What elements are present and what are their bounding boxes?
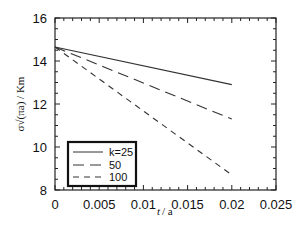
y-tick-label: 12 — [33, 97, 47, 112]
x-axis-label: t / a — [157, 205, 173, 217]
y-tick-label: 8 — [40, 183, 47, 198]
legend-label-k25: k=25 — [109, 146, 133, 158]
x-axis-label-main: t — [157, 205, 161, 217]
y-tick-labels: 810121416 — [33, 11, 47, 198]
x-tick-label: 0 — [51, 197, 58, 212]
x-tick-label: 0.02 — [219, 197, 244, 212]
x-tick-label: 0.015 — [171, 197, 204, 212]
legend: k=25 50 100 — [68, 142, 136, 186]
legend-label-50: 50 — [109, 159, 121, 171]
x-tick-label: 0.005 — [83, 197, 116, 212]
x-tick-label: 0.025 — [260, 197, 293, 212]
y-tick-label: 14 — [33, 54, 47, 69]
x-tick-label: 0.01 — [131, 197, 156, 212]
y-tick-label: 10 — [33, 140, 47, 155]
y-axis-label: σ√(πa) / Km — [14, 76, 27, 131]
legend-label-100: 100 — [109, 171, 127, 183]
series-line — [55, 47, 232, 85]
y-tick-label: 16 — [33, 11, 47, 26]
x-axis-label-sub: / a — [162, 205, 173, 217]
series-line — [55, 47, 232, 119]
chart: 810121416 00.0050.010.0150.020.025 k=25 … — [0, 0, 307, 237]
